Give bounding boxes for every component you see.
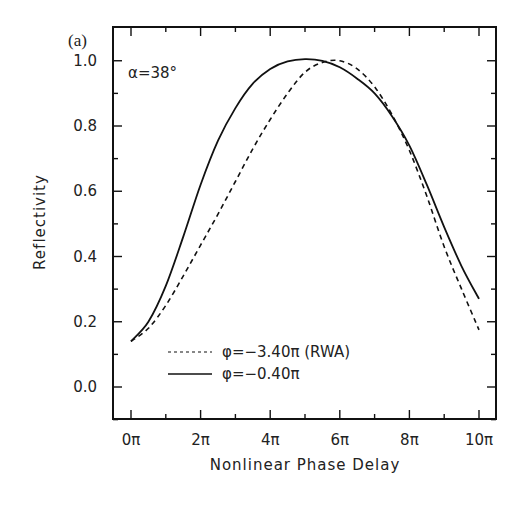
x-tick-label: 10π <box>465 431 493 449</box>
legend-label-solid: φ=−0.40π <box>222 365 299 383</box>
x-tick-label: 8π <box>400 431 419 449</box>
y-tick-label: 1.0 <box>73 52 97 70</box>
alpha-annotation: α=38° <box>128 64 177 82</box>
x-tick-label: 0π <box>122 431 141 449</box>
x-axis-title: Nonlinear Phase Delay <box>210 456 401 474</box>
y-tick-label: 0.4 <box>73 248 97 266</box>
y-tick-label: 0.6 <box>73 182 97 200</box>
y-tick-labels: 0.00.20.40.60.81.0 <box>73 52 97 396</box>
y-tick-label: 0.0 <box>73 378 97 396</box>
series-solid-line <box>131 59 479 341</box>
y-tick-label: 0.2 <box>73 313 97 331</box>
reflectivity-chart: (a) 0.00.20.40.60.81.0 0π2π4π6π8π10π α=3… <box>0 0 525 518</box>
y-axis-title: Reflectivity <box>31 174 49 270</box>
panel-label: (a) <box>68 31 87 50</box>
series-dashed-rwa-line <box>131 60 479 341</box>
legend-label-rwa: φ=−3.40π (RWA) <box>222 343 350 361</box>
y-tick-label: 0.8 <box>73 117 97 135</box>
x-tick-label: 6π <box>331 431 350 449</box>
x-tick-labels: 0π2π4π6π8π10π <box>122 431 493 449</box>
x-tick-label: 2π <box>191 431 210 449</box>
legend: φ=−3.40π (RWA) φ=−0.40π <box>168 343 350 383</box>
x-tick-label: 4π <box>261 431 280 449</box>
